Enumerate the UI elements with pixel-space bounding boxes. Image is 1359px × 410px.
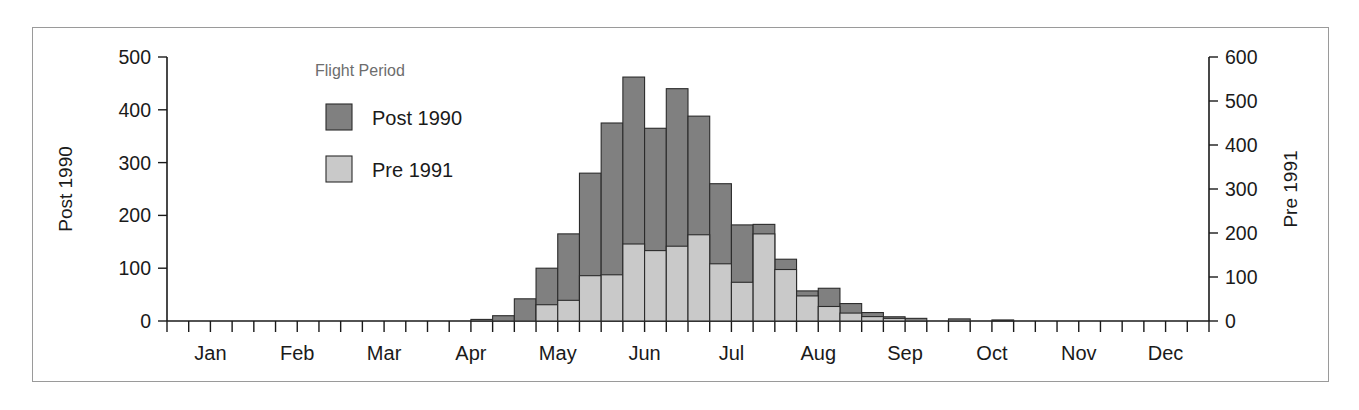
right-tick-label: 400 (1225, 134, 1258, 156)
bar-pre-1991 (710, 264, 732, 321)
month-label-oct: Oct (976, 342, 1008, 364)
left-axis-tick-labels: 0100200300400500 (118, 46, 151, 332)
bar-pre-1991 (731, 282, 753, 321)
flight-period-histogram: 0100200300400500 0100200300400500600 Jan… (0, 0, 1359, 410)
chart-figure: 0100200300400500 0100200300400500600 Jan… (0, 0, 1359, 410)
right-tick-label: 300 (1225, 178, 1258, 200)
month-label-jan: Jan (194, 342, 226, 364)
legend-swatch-post-1990 (326, 104, 352, 130)
bar-post-1990 (471, 319, 493, 321)
bar-post-1990 (905, 318, 927, 321)
legend-title: Flight Period (315, 62, 405, 79)
month-label-mar: Mar (367, 342, 402, 364)
month-label-jul: Jul (719, 342, 745, 364)
bar-post-1990 (949, 319, 971, 321)
bar-pre-1991 (579, 276, 601, 321)
bar-pre-1991 (818, 306, 840, 321)
bar-pre-1991 (666, 246, 688, 321)
bar-pre-1991 (753, 234, 775, 321)
month-label-dec: Dec (1148, 342, 1184, 364)
bar-pre-1991 (688, 235, 710, 321)
bar-pre-1991 (623, 244, 645, 321)
left-tick-label: 0 (140, 310, 151, 332)
right-tick-label: 0 (1225, 310, 1236, 332)
left-tick-label: 300 (118, 152, 151, 174)
bar-pre-1991 (601, 275, 623, 321)
left-tick-label: 100 (118, 257, 151, 279)
bar-pre-1991 (536, 305, 558, 321)
left-tick-label: 500 (118, 46, 151, 68)
month-label-sep: Sep (887, 342, 923, 364)
x-axis-ticks (167, 321, 1209, 332)
bar-pre-1991 (558, 300, 580, 321)
legend: Flight Period Post 1990 Pre 1991 (315, 62, 462, 182)
right-tick-label: 600 (1225, 46, 1258, 68)
legend-label-post-1990: Post 1990 (372, 107, 462, 129)
month-label-jun: Jun (628, 342, 660, 364)
left-axis-title: Post 1990 (55, 146, 76, 232)
right-axis-title: Pre 1991 (1280, 150, 1301, 227)
bar-post-1990 (514, 299, 536, 321)
right-axis-tick-labels: 0100200300400500600 (1225, 46, 1258, 332)
bar-post-1990 (992, 320, 1014, 321)
left-tick-label: 400 (118, 99, 151, 121)
legend-swatch-pre-1991 (326, 156, 352, 182)
bar-post-1990 (493, 316, 515, 321)
month-label-nov: Nov (1061, 342, 1097, 364)
bar-pre-1991 (775, 270, 797, 321)
right-tick-label: 200 (1225, 222, 1258, 244)
month-label-may: May (539, 342, 577, 364)
x-axis-month-labels: JanFebMarAprMayJunJulAugSepOctNovDec (194, 342, 1183, 364)
bar-pre-1991 (840, 313, 862, 321)
bar-pre-1991 (862, 317, 884, 321)
left-axis-ticks (158, 57, 167, 321)
right-tick-label: 500 (1225, 90, 1258, 112)
bar-pre-1991 (645, 251, 667, 321)
bar-pre-1991 (883, 318, 905, 321)
left-tick-label: 200 (118, 204, 151, 226)
bar-pre-1991 (797, 296, 819, 321)
month-label-feb: Feb (280, 342, 314, 364)
month-label-apr: Apr (455, 342, 486, 364)
legend-label-pre-1991: Pre 1991 (372, 159, 453, 181)
right-axis-ticks (1209, 57, 1218, 321)
right-tick-label: 100 (1225, 266, 1258, 288)
month-label-aug: Aug (800, 342, 836, 364)
